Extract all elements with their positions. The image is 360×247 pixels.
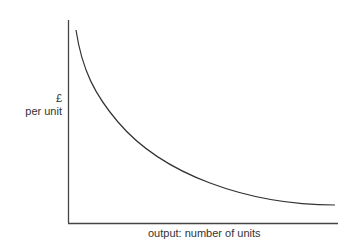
chart-canvas: [0, 0, 360, 247]
y-axis-label-unit: per unit: [25, 105, 62, 118]
y-axis-label-currency: £: [25, 92, 62, 105]
x-axis-label: output: number of units: [148, 227, 261, 239]
y-axis-label: £ per unit: [25, 92, 62, 118]
cost-curve: [76, 30, 335, 205]
